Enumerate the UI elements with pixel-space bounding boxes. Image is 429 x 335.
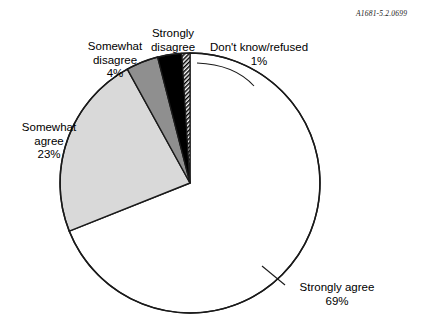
slice-value-strongly-disagree: 3% — [140, 54, 206, 68]
slice-value-somewhat-disagree: 4% — [72, 67, 158, 81]
slice-value-dont-know-refused: 1% — [198, 55, 320, 69]
slice-label-line1: Don't know/refused — [210, 41, 308, 53]
slice-label-dont-know-refused: Don't know/refused 1% — [198, 41, 320, 68]
slice-label-strongly-disagree: Strongly disagree 3% — [140, 27, 206, 68]
slice-value-strongly-agree: 69% — [288, 295, 386, 309]
slice-label-strongly-agree: Strongly agree 69% — [288, 281, 386, 308]
slice-value-somewhat-agree: 23% — [6, 148, 92, 162]
slice-label-line1: Somewhat — [22, 121, 76, 133]
pie-chart-figure: Somewhat disagree 4% Strongly disagree 3… — [0, 0, 429, 335]
slice-label-line1: Somewhat — [88, 40, 142, 52]
slice-label-line2: disagree — [151, 41, 195, 53]
slice-label-line1: Strongly — [152, 27, 194, 39]
slice-label-line2: agree — [34, 135, 63, 147]
slice-label-line2: disagree — [93, 54, 137, 66]
slice-label-line1: Strongly agree — [300, 281, 375, 293]
slice-label-somewhat-agree: Somewhat agree 23% — [6, 121, 92, 162]
figure-id-code: A1681-5.2.0699 — [356, 9, 407, 18]
